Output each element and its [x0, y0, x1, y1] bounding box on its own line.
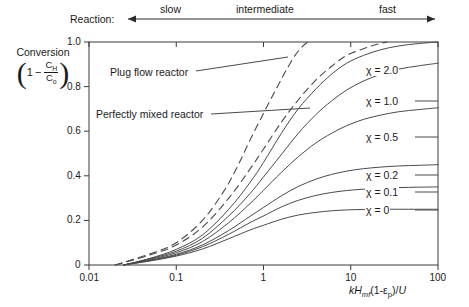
annotation-perfectly-mixed-reactor: Perfectly mixed reactor: [96, 108, 203, 120]
x-tick-label: 100: [430, 272, 447, 283]
curve-label-chi-0-2: χ = 0.2: [365, 169, 399, 181]
x-tick-label: 10: [345, 272, 356, 283]
y-tick-label: 0.2: [67, 214, 81, 225]
x-tick-label: 0.1: [169, 272, 183, 283]
annotation-plug-flow-reactor: Plug flow reactor: [110, 66, 188, 78]
y-tick-label: 0.4: [67, 170, 81, 181]
curve-label-chi-0-1: χ = 0.1: [365, 186, 399, 198]
y-tick-label: 1.0: [67, 36, 81, 47]
y-tick-label: 0: [75, 259, 81, 270]
curve-label-chi-1-0: χ = 1.0: [365, 95, 399, 107]
y-tick-label: 0.6: [67, 125, 81, 136]
chart-figure: Reaction: slow intermediate fast Convers…: [0, 0, 469, 307]
curve-label-chi-0-5: χ = 0.5: [365, 131, 399, 143]
series-curve-3: [124, 63, 438, 265]
curve-label-chi-2-0: χ = 2.0: [365, 64, 399, 76]
x-tick-label: 1: [261, 272, 267, 283]
x-tick-label: 0.01: [80, 272, 99, 283]
curve-label-chi-0: χ = 0: [365, 204, 390, 216]
callout-line-plug-flow: [196, 57, 288, 71]
y-tick-label: 0.8: [67, 81, 81, 92]
